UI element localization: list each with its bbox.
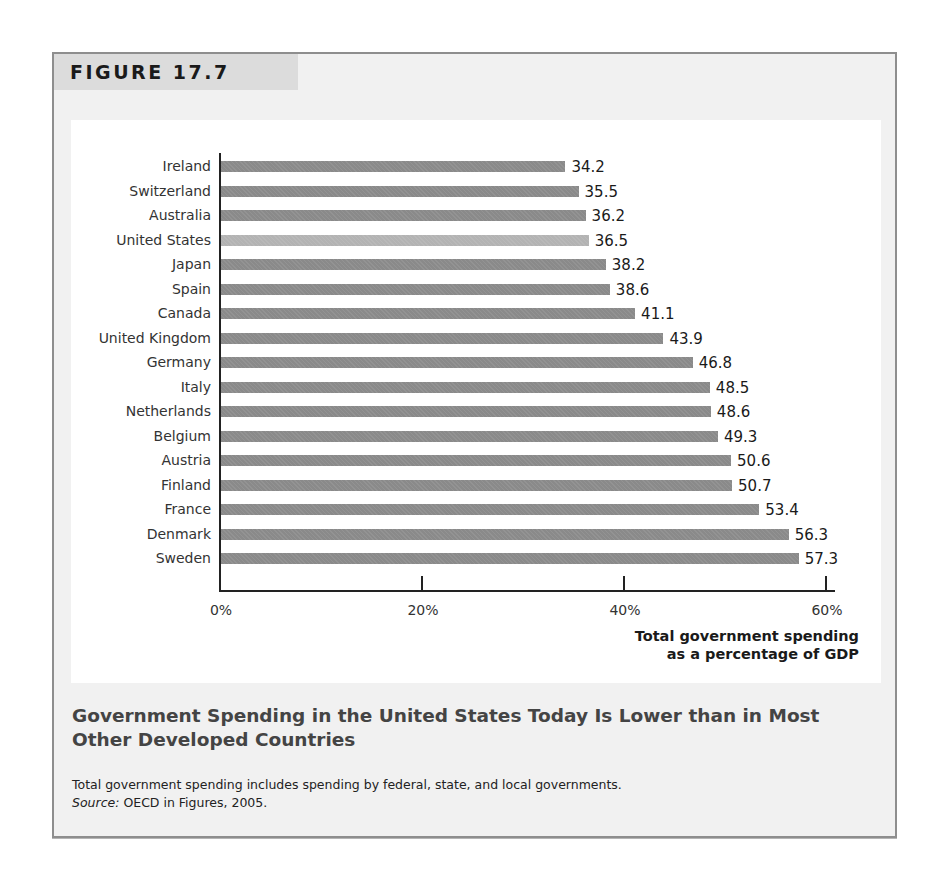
bar-row: Ireland34.2 (71, 155, 881, 179)
bar-row: Spain38.6 (71, 278, 881, 302)
figure-number-label: FIGURE 17.7 (54, 54, 298, 90)
category-label: Finland (71, 473, 211, 497)
figure-box: FIGURE 17.7 Ireland34.2Switzerland35.5Au… (52, 52, 897, 838)
bar (220, 161, 565, 172)
value-label: 50.6 (737, 449, 770, 473)
category-label: Japan (71, 252, 211, 276)
category-label: United States (71, 228, 211, 252)
x-tick (825, 576, 827, 590)
bar-row: Canada41.1 (71, 302, 881, 326)
value-label: 53.4 (765, 498, 798, 522)
category-label: Germany (71, 350, 211, 374)
source-text: OECD in Figures, 2005. (119, 795, 267, 810)
bar-row: Netherlands48.6 (71, 400, 881, 424)
x-tick (421, 576, 423, 590)
bar-row: Australia36.2 (71, 204, 881, 228)
value-label: 49.3 (724, 425, 757, 449)
figure-caption-note: Total government spending includes spend… (72, 776, 872, 812)
bar (220, 308, 635, 319)
bar (220, 333, 663, 344)
category-label: Australia (71, 203, 211, 227)
value-label: 46.8 (699, 351, 732, 375)
value-label: 48.6 (717, 400, 750, 424)
category-label: Switzerland (71, 179, 211, 203)
bar-row: Denmark56.3 (71, 523, 881, 547)
source-line: Source: OECD in Figures, 2005. (72, 794, 872, 812)
bar-row: Austria50.6 (71, 449, 881, 473)
bar-row: United States36.5 (71, 229, 881, 253)
bar (220, 382, 710, 393)
category-label: Austria (71, 448, 211, 472)
bar (220, 504, 759, 515)
category-label: France (71, 497, 211, 521)
bar-row: Switzerland35.5 (71, 180, 881, 204)
chart-panel: Ireland34.2Switzerland35.5Australia36.2U… (71, 120, 881, 683)
category-label: Sweden (71, 546, 211, 570)
category-label: Ireland (71, 154, 211, 178)
source-label: Source: (72, 795, 119, 810)
x-tick-label: 20% (407, 602, 438, 618)
category-label: Netherlands (71, 399, 211, 423)
bar-row: United Kingdom43.9 (71, 327, 881, 351)
value-label: 43.9 (669, 327, 702, 351)
bar (220, 553, 799, 564)
bar (220, 357, 693, 368)
value-label: 41.1 (641, 302, 674, 326)
category-label: Spain (71, 277, 211, 301)
value-label: 38.6 (616, 278, 649, 302)
category-label: United Kingdom (71, 326, 211, 350)
category-label: Canada (71, 301, 211, 325)
value-label: 48.5 (716, 376, 749, 400)
bar (220, 455, 731, 466)
figure-caption-title: Government Spending in the United States… (72, 704, 872, 752)
bar (220, 406, 711, 417)
bar (220, 529, 789, 540)
x-axis-title: Total government spending as a percentag… (635, 627, 859, 663)
bar-row: Belgium49.3 (71, 425, 881, 449)
bar (220, 186, 579, 197)
value-label: 36.2 (592, 204, 625, 228)
x-tick-label: 60% (811, 602, 842, 618)
bar (220, 259, 606, 270)
bar (220, 210, 586, 221)
x-tick-label: 0% (210, 602, 232, 618)
value-label: 35.5 (585, 180, 618, 204)
x-tick-label: 40% (609, 602, 640, 618)
bar (220, 431, 718, 442)
category-label: Denmark (71, 522, 211, 546)
value-label: 50.7 (738, 474, 771, 498)
bar (220, 284, 610, 295)
bar-row: Japan38.2 (71, 253, 881, 277)
bar (220, 480, 732, 491)
x-axis-title-line-2: as a percentage of GDP (635, 645, 859, 663)
value-label: 38.2 (612, 253, 645, 277)
value-label: 57.3 (805, 547, 838, 571)
y-axis-line (219, 153, 221, 591)
value-label: 56.3 (795, 523, 828, 547)
category-label: Belgium (71, 424, 211, 448)
value-label: 36.5 (595, 229, 628, 253)
x-axis-line (219, 590, 835, 592)
category-label: Italy (71, 375, 211, 399)
bar-row: Sweden57.3 (71, 547, 881, 571)
x-tick (623, 576, 625, 590)
value-label: 34.2 (571, 155, 604, 179)
bar-row: Italy48.5 (71, 376, 881, 400)
bar-row: France53.4 (71, 498, 881, 522)
bar-row: Finland50.7 (71, 474, 881, 498)
note-text: Total government spending includes spend… (72, 776, 872, 794)
bar-highlighted (220, 235, 589, 246)
bar-row: Germany46.8 (71, 351, 881, 375)
x-axis-title-line-1: Total government spending (635, 627, 859, 645)
